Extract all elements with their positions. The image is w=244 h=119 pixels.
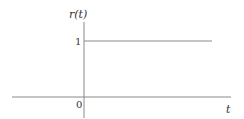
origin-label: 0 — [76, 99, 82, 110]
y-axis-label: r(t) — [69, 8, 87, 21]
step-function-plot: r(t) 1 0 t — [0, 0, 244, 119]
y-tick-label-1: 1 — [75, 36, 81, 47]
x-axis-label: t — [226, 103, 231, 116]
